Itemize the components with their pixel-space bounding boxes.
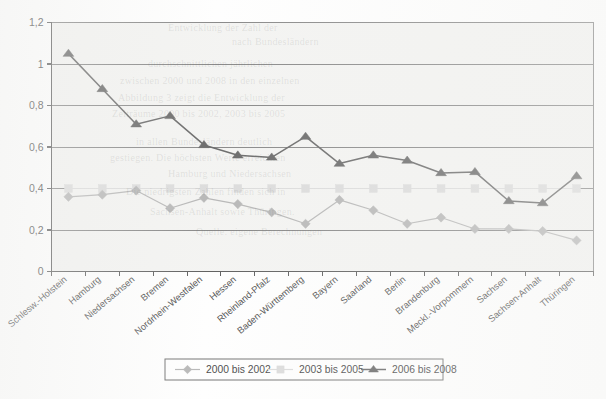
x-axis-tick-labels: Schlesw.-HolsteinHamburgNiedersachsenBre… bbox=[6, 274, 577, 337]
y-axis-tick-label: 0,4 bbox=[29, 182, 44, 194]
data-point-marker bbox=[65, 185, 73, 193]
data-point-marker bbox=[539, 185, 547, 193]
chart-legend: 2000 bis 20022003 bis 20052006 bis 2008 bbox=[165, 359, 457, 380]
x-axis-tick-label: Bayern bbox=[311, 274, 340, 301]
data-point-marker bbox=[505, 185, 513, 193]
x-axis-tick-label: Saarland bbox=[339, 274, 374, 306]
x-axis-tick-label: Hessen bbox=[208, 274, 239, 302]
y-axis-tick-label: 0,8 bbox=[29, 99, 44, 111]
data-point-marker bbox=[403, 185, 411, 193]
chart-figure: Entwicklung der Zahl dernach Bundeslände… bbox=[0, 0, 606, 399]
legend-item-label: 2006 bis 2008 bbox=[392, 364, 457, 375]
data-point-marker bbox=[302, 185, 310, 193]
x-axis-tick-label: Berlin bbox=[383, 274, 408, 297]
legend-item-label: 2003 bis 2005 bbox=[299, 364, 364, 375]
data-point-marker bbox=[277, 366, 284, 373]
x-axis-tick-label: Schlesw.-Holstein bbox=[6, 274, 69, 329]
data-point-marker bbox=[200, 185, 208, 193]
x-axis-tick-label: Nordrhein-Westfalen bbox=[133, 274, 205, 336]
x-axis-tick-label: Bremen bbox=[139, 274, 170, 303]
data-point-marker bbox=[471, 185, 479, 193]
x-axis-tick-label: Meckl.-Vorpommern bbox=[405, 274, 475, 335]
y-axis: 00,20,40,60,811,2 bbox=[29, 16, 52, 277]
data-point-marker bbox=[573, 185, 581, 193]
x-axis-tick-label: Baden-Württemberg bbox=[235, 274, 306, 335]
x-axis-tick-label: Thüringen bbox=[538, 274, 577, 309]
data-point-marker bbox=[234, 185, 242, 193]
x-axis bbox=[52, 272, 594, 277]
data-point-marker bbox=[268, 185, 276, 193]
data-point-marker bbox=[369, 185, 377, 193]
legend-item-label: 2000 bis 2002 bbox=[206, 364, 271, 375]
y-axis-tick-label: 0,2 bbox=[29, 224, 44, 236]
y-axis-tick-label: 1,2 bbox=[29, 16, 44, 28]
data-point-marker bbox=[336, 185, 344, 193]
y-axis-tick-label: 0 bbox=[38, 265, 44, 277]
y-axis-tick-label: 0,6 bbox=[29, 141, 44, 153]
line-chart: 00,20,40,60,811,2 Schlesw.-HolsteinHambu… bbox=[0, 0, 606, 399]
data-point-marker bbox=[437, 185, 445, 193]
data-point-marker bbox=[166, 185, 174, 193]
y-axis-tick-label: 1 bbox=[38, 58, 44, 70]
